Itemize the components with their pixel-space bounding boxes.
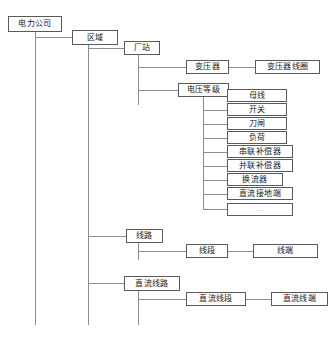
node-line[interactable]: 线路 <box>126 229 163 243</box>
node-line-terminal[interactable]: 线端 <box>253 244 318 258</box>
node-disconnector[interactable]: 刀闸 <box>227 117 287 130</box>
node-bus[interactable]: 母线 <box>227 89 287 102</box>
edge-voltage-level-to-dc-ground <box>203 194 227 195</box>
edge-region-to-station <box>88 48 124 49</box>
edge-voltage-level-to-shunt-compensator <box>203 166 227 167</box>
node-dc-line[interactable]: 直流线路 <box>124 276 180 291</box>
node-company[interactable]: 电力公司 <box>8 16 62 32</box>
node-shunt-compensator[interactable]: 并联补偿器 <box>227 159 293 172</box>
edge-voltage-level-to-more <box>203 209 227 210</box>
diagram-canvas: 电力公司 区域 厂站 变压器 变压器线圈 电压等级 母线 开关 刀闸 负荷 串联… <box>0 0 333 341</box>
edge-voltage-level-to-disconnector <box>203 124 227 125</box>
node-transformer[interactable]: 变压器 <box>186 60 229 74</box>
node-load[interactable]: 负荷 <box>227 131 287 144</box>
node-switch[interactable]: 开关 <box>227 103 287 116</box>
node-region[interactable]: 区域 <box>72 30 118 45</box>
edge-station-to-transformer <box>138 67 186 68</box>
node-dc-ground[interactable]: 直流接地端 <box>227 187 293 200</box>
node-converter[interactable]: 换流器 <box>227 173 283 186</box>
edge-transformer-to-winding <box>229 67 255 68</box>
edge-region-to-dcline <box>88 283 124 284</box>
edge-segment-to-terminal <box>228 251 253 252</box>
edge-voltage-level-to-switch <box>203 110 227 111</box>
node-series-compensator[interactable]: 串联补偿器 <box>227 145 293 158</box>
node-more[interactable]: … <box>227 203 293 216</box>
edge-voltage-level-to-series-compensator <box>203 152 227 153</box>
edge-dcline-trunk <box>138 291 139 325</box>
node-transformer-winding[interactable]: 变压器线圈 <box>255 60 320 74</box>
edge-dcsegment-to-terminal <box>246 299 271 300</box>
edge-voltage-level-to-converter <box>203 180 227 181</box>
node-station[interactable]: 厂站 <box>124 41 160 55</box>
node-voltage-level[interactable]: 电压等级 <box>178 83 229 97</box>
edge-station-trunk <box>138 55 139 105</box>
edge-voltage-level-to-load <box>203 138 227 139</box>
edge-dcline-to-segment <box>138 299 186 300</box>
edge-company-trunk <box>35 32 36 325</box>
edge-region-to-line <box>88 236 126 237</box>
node-dc-line-terminal[interactable]: 直流线端 <box>271 292 328 306</box>
edge-company-to-region <box>35 37 72 38</box>
edge-line-to-segment <box>138 251 186 252</box>
node-line-segment[interactable]: 线段 <box>186 244 228 258</box>
node-dc-line-segment[interactable]: 直流线段 <box>186 292 246 306</box>
